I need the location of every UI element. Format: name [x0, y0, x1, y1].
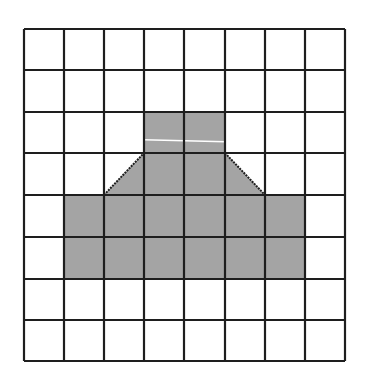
shaded-cell	[225, 195, 265, 237]
shaded-cell	[184, 195, 225, 237]
shaded-cell	[184, 153, 225, 195]
shaded-cell	[184, 237, 225, 279]
grid-lines	[24, 29, 345, 361]
shaded-cell	[184, 112, 225, 153]
shaded-cell	[144, 112, 184, 153]
shaded-cell	[265, 195, 305, 237]
shaded-cell	[265, 237, 305, 279]
shaded-cell	[64, 237, 104, 279]
shaded-cell	[144, 153, 184, 195]
shaded-cell	[104, 195, 144, 237]
shaded-cell	[64, 195, 104, 237]
shaded-cell	[144, 195, 184, 237]
shaded-cell	[225, 237, 265, 279]
shaded-cell	[144, 237, 184, 279]
shaded-cell	[104, 237, 144, 279]
grid-diagram	[0, 0, 365, 378]
